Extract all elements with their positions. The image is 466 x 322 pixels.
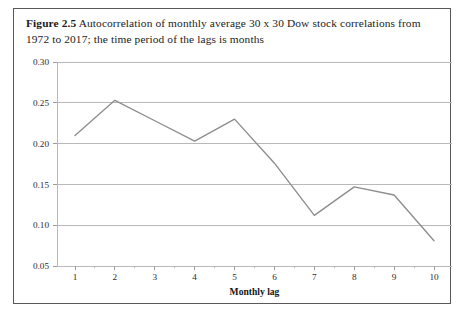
chart-plot-area: 0.050.100.150.200.250.30 12345678910 Mon… [14, 9, 452, 303]
x-axis-tick-labels: 12345678910 [73, 272, 439, 282]
x-tick-label-8: 8 [352, 272, 357, 282]
y-tick-label-0.10: 0.10 [33, 220, 49, 230]
series-autocorrelation-line [75, 100, 434, 240]
x-tick-label-3: 3 [152, 272, 157, 282]
x-tick-label-10: 10 [429, 272, 439, 282]
autocorrelation-line-chart: 0.050.100.150.200.250.30 12345678910 Mon… [14, 9, 452, 303]
x-tick-label-9: 9 [392, 272, 397, 282]
x-tick-label-7: 7 [312, 272, 317, 282]
ticks-group [53, 62, 434, 270]
x-tick-label-6: 6 [272, 272, 277, 282]
gridlines-group [57, 62, 452, 266]
y-axis-tick-labels: 0.050.100.150.200.250.30 [33, 57, 49, 271]
figure-frame: Figure 2.5 Autocorrelation of monthly av… [13, 8, 451, 304]
y-tick-label-0.25: 0.25 [33, 98, 49, 108]
x-tick-label-5: 5 [232, 272, 237, 282]
y-tick-label-0.15: 0.15 [33, 180, 49, 190]
data-series-group [75, 100, 434, 240]
x-tick-label-1: 1 [73, 272, 78, 282]
x-axis-title: Monthly lag [230, 286, 280, 297]
y-tick-label-0.05: 0.05 [33, 261, 49, 271]
y-tick-label-0.30: 0.30 [33, 57, 49, 67]
x-tick-label-4: 4 [192, 272, 197, 282]
x-tick-label-2: 2 [113, 272, 118, 282]
y-tick-label-0.20: 0.20 [33, 139, 49, 149]
